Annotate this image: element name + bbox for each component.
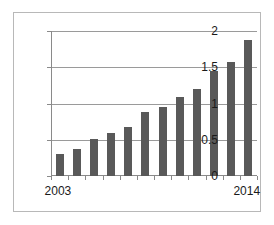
x-tick-mark xyxy=(51,176,52,180)
bar xyxy=(90,139,98,176)
bar xyxy=(193,89,201,176)
y-axis-tick-label: 1.5 xyxy=(201,61,218,73)
bar xyxy=(124,127,132,176)
y-axis-tick-label: 0 xyxy=(211,170,218,182)
y-tick-mark xyxy=(47,67,51,68)
x-tick-mark xyxy=(206,176,207,180)
x-tick-mark xyxy=(188,176,189,180)
x-tick-mark xyxy=(257,176,258,180)
y-axis-tick-label: 1 xyxy=(211,98,218,110)
y-axis-tick-label: 2 xyxy=(211,25,218,37)
gridline xyxy=(51,104,257,105)
bar xyxy=(56,154,64,176)
x-tick-mark xyxy=(223,176,224,180)
y-tick-mark xyxy=(47,31,51,32)
bar xyxy=(73,149,81,176)
gridline xyxy=(51,31,257,32)
y-axis-tick-label: 0.5 xyxy=(201,134,218,146)
x-axis-tick-label: 2014 xyxy=(233,185,260,197)
bar xyxy=(176,97,184,176)
x-tick-mark xyxy=(120,176,121,180)
x-tick-mark xyxy=(171,176,172,180)
x-tick-mark xyxy=(137,176,138,180)
chart-screenshot: 00.511.52 20032014 xyxy=(0,0,274,225)
y-tick-mark xyxy=(47,104,51,105)
bar xyxy=(244,40,252,176)
y-axis-line xyxy=(51,31,52,176)
x-tick-mark xyxy=(240,176,241,180)
x-tick-mark xyxy=(154,176,155,180)
gridline xyxy=(51,140,257,141)
plot-area xyxy=(51,31,257,176)
x-tick-mark xyxy=(85,176,86,180)
x-axis-tick-label: 2003 xyxy=(45,185,72,197)
bar xyxy=(159,107,167,176)
bar xyxy=(227,62,235,176)
bar xyxy=(141,112,149,176)
y-tick-mark xyxy=(47,140,51,141)
bar xyxy=(107,133,115,176)
chart-frame: 00.511.52 20032014 xyxy=(13,12,261,212)
gridline xyxy=(51,67,257,68)
x-tick-mark xyxy=(68,176,69,180)
bar xyxy=(210,71,218,176)
x-tick-mark xyxy=(103,176,104,180)
